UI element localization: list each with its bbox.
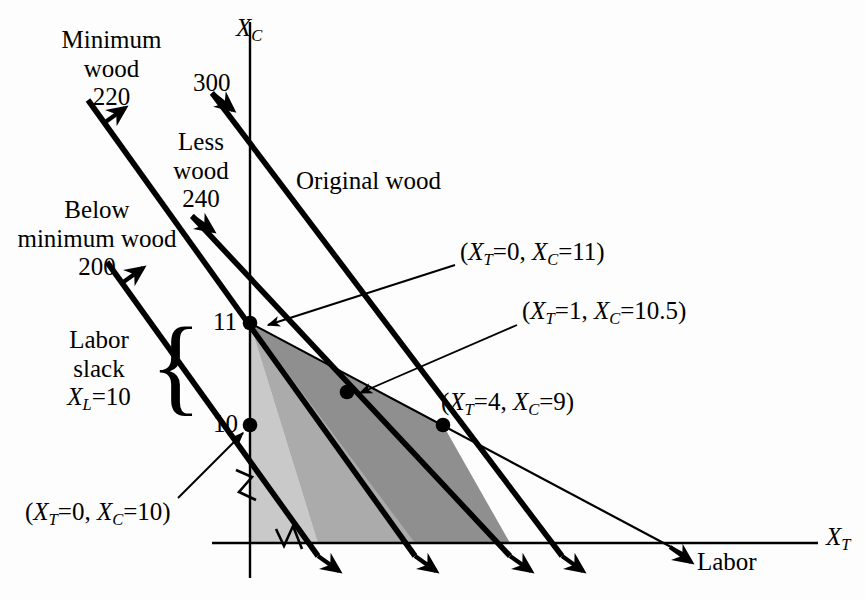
- point-label-0-10-xt-sub: T: [49, 510, 58, 529]
- point-label-1-10-5-xt-eq: =1,: [555, 297, 594, 324]
- point-label-0-11-xc: X: [532, 238, 547, 265]
- point-label-4-9-xt: X: [449, 388, 464, 415]
- data-point-0-10: [243, 418, 258, 433]
- point-label-1-10-5-xc-sub: C: [609, 309, 620, 328]
- leader-line-point-1-10-5: [360, 325, 517, 393]
- point-label-4-9-xt-sub: T: [465, 400, 474, 419]
- x-axis-label-text: X: [826, 523, 841, 550]
- label-labor-slack-val: =10: [92, 383, 131, 410]
- data-point-1-10-5: [340, 385, 355, 400]
- point-label-0-10-xc-eq: =10): [123, 498, 170, 525]
- point-label-1-10-5-xc-eq: =10.5): [620, 297, 686, 324]
- label-less-wood-line2: wood: [148, 157, 254, 186]
- label-labor-slack-line1: Labor: [44, 326, 154, 355]
- x-axis-label-sub: T: [841, 535, 850, 554]
- label-labor: Labor: [697, 548, 757, 577]
- y-tick-label-11: 11: [213, 308, 237, 337]
- label-below-minimum-wood-line3: 200: [6, 253, 188, 282]
- y-tick-label-300: 300: [193, 69, 231, 98]
- label-minimum-wood-line1: Minimum: [24, 26, 199, 55]
- y-axis-label-text: X: [236, 14, 251, 41]
- arrow-minimum-wood-lower: [415, 556, 436, 571]
- point-label-1-10-5-xt: X: [530, 297, 545, 324]
- leader-line-point-0-10: [178, 433, 243, 498]
- arrow-less-wood-lower: [510, 556, 531, 571]
- data-point-4-9: [436, 418, 451, 433]
- label-minimum-wood: Minimum wood 220: [24, 26, 199, 112]
- point-label-0-10-xc-sub: C: [112, 510, 123, 529]
- point-label-4-9-xc: X: [513, 388, 528, 415]
- point-label-0-11-xc-sub: C: [547, 250, 558, 269]
- label-labor-slack-sub: L: [82, 395, 91, 414]
- arrow-below-minimum-wood-lower: [318, 556, 339, 571]
- label-labor-slack-var: X: [67, 383, 82, 410]
- leader-line-point-0-11: [268, 265, 455, 325]
- label-minimum-wood-line3: 220: [24, 83, 199, 112]
- point-label-0-10-xt: X: [33, 498, 48, 525]
- point-label-4-9-xt-eq: =4,: [474, 388, 513, 415]
- label-below-minimum-wood: Below minimum wood 200: [6, 196, 188, 282]
- point-label-0-11-xt-sub: T: [484, 250, 493, 269]
- point-label-0-11-xt: X: [468, 238, 483, 265]
- label-below-minimum-wood-line1: Below: [6, 196, 188, 225]
- point-label-1-10-5-xc: X: [594, 297, 609, 324]
- point-label-1-10-5-xt-sub: T: [546, 309, 555, 328]
- label-labor-slack-line2: slack: [44, 355, 154, 384]
- point-label-4-9: (XT=4, XC=9): [441, 388, 574, 419]
- point-label-0-11-xc-eq: =11): [558, 238, 605, 265]
- label-labor-slack-line3: XL=10: [44, 383, 154, 414]
- point-label-1-10-5: (XT=1, XC=10.5): [522, 297, 686, 328]
- arrow-labor: [670, 547, 691, 562]
- y-tick-label-10: 10: [213, 410, 238, 439]
- label-original-wood: Original wood: [296, 167, 441, 196]
- label-less-wood-line1: Less: [148, 128, 254, 157]
- y-axis-label: XC: [236, 14, 262, 45]
- point-label-0-11-xt-eq: =0,: [493, 238, 532, 265]
- linear-programming-figure: Minimum wood 220 Less wood 240 Below min…: [0, 0, 865, 600]
- x-axis-label: XT: [826, 523, 850, 554]
- data-point-0-11: [243, 316, 258, 331]
- point-label-4-9-xc-sub: C: [528, 400, 539, 419]
- point-label-0-11: (XT=0, XC=11): [460, 238, 605, 269]
- arrow-original-wood-lower: [562, 556, 583, 571]
- point-label-0-10-xc: X: [97, 498, 112, 525]
- label-labor-slack: Labor slack XL=10: [44, 326, 154, 414]
- label-minimum-wood-line2: wood: [24, 55, 199, 84]
- point-label-4-9-xc-eq: =9): [539, 388, 574, 415]
- point-label-0-10: (XT=0, XC=10): [25, 498, 171, 529]
- point-label-0-10-xt-eq: =0,: [58, 498, 97, 525]
- y-axis-label-sub: C: [251, 26, 262, 45]
- label-below-minimum-wood-line2: minimum wood: [6, 225, 188, 254]
- labor-slack-brace: {: [150, 312, 202, 420]
